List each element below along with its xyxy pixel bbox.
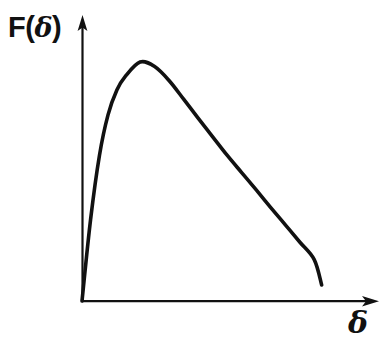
y-axis-label-suffix: )	[52, 11, 61, 43]
y-axis-label-prefix: F(	[8, 11, 34, 43]
figure-root: F(δ) δ	[0, 0, 387, 343]
distribution-curve	[82, 62, 322, 301]
y-axis-label-delta: δ	[34, 12, 52, 43]
x-axis-label: δ	[348, 308, 368, 338]
y-axis-label: F(δ)	[8, 13, 61, 42]
plot-canvas	[0, 0, 387, 343]
